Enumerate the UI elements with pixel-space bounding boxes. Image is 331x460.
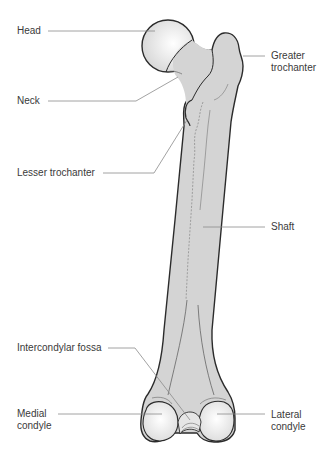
label-lesser-trochanter: Lesser trochanter [17, 167, 95, 179]
label-lateral-condyle: Lateral condyle [271, 409, 305, 433]
femur-diagram: Head Greater trochanter Neck Lesser troc… [0, 0, 331, 460]
label-neck: Neck [17, 95, 40, 107]
lateral-condyle-shape [199, 401, 234, 441]
label-greater-trochanter: Greater trochanter [271, 50, 316, 74]
label-medial-condyle: Medial condyle [17, 408, 51, 432]
label-head: Head [17, 25, 41, 37]
medial-condyle-shape [143, 402, 178, 441]
label-shaft: Shaft [271, 221, 294, 233]
leader-lesser-trochanter [103, 120, 187, 173]
leader-neck [48, 77, 178, 101]
label-intercondylar-fossa: Intercondylar fossa [17, 342, 102, 354]
